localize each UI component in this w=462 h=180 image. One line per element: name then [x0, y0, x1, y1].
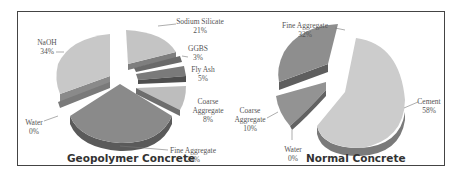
label-name: Fine Aggregate: [275, 21, 335, 30]
label-normal-fine-aggregate: Fine Aggregate 32%: [275, 21, 335, 39]
label-name: Cement: [413, 97, 445, 106]
label-water: Water 0%: [20, 118, 48, 136]
slice-normal-coarse-aggregate: [276, 82, 326, 130]
label-cement: Cement 58%: [413, 97, 445, 115]
label-name: Coarse: [188, 97, 228, 106]
label-pct: 3%: [183, 53, 213, 62]
normal-pie: [276, 24, 405, 156]
label-name: Water: [20, 118, 48, 127]
label-pct: 0%: [20, 127, 48, 136]
label-sodium-silicate: Sodium Silicate 21%: [170, 17, 230, 35]
label-name: Coarse: [230, 106, 270, 115]
label-name: NaOH: [32, 38, 62, 47]
label-pct: 32%: [275, 30, 335, 39]
geopolymer-pie: [56, 30, 186, 151]
label-name-2: Aggregate: [230, 115, 270, 124]
label-pct: 0%: [278, 154, 308, 163]
label-name: GGBS: [183, 44, 213, 53]
label-coarse-aggregate: Coarse Aggregate 8%: [188, 97, 228, 124]
label-ggbs: GGBS 3%: [183, 44, 213, 62]
label-pct: 58%: [413, 106, 445, 115]
label-naoh: NaOH 34%: [32, 38, 62, 56]
label-name: Fly Ash: [188, 65, 218, 74]
geopolymer-title: Geopolymer Concrete: [67, 152, 195, 164]
label-normal-water: Water 0%: [278, 145, 308, 163]
normal-concrete-title: Normal Concrete: [306, 152, 406, 164]
label-fly-ash: Fly Ash 5%: [188, 65, 218, 83]
label-pct: 34%: [32, 47, 62, 56]
label-name-2: Aggregate: [188, 106, 228, 115]
label-pct: 10%: [230, 124, 270, 133]
label-pct: 21%: [170, 26, 230, 35]
label-pct: 8%: [188, 115, 228, 124]
label-normal-coarse-aggregate: Coarse Aggregate 10%: [230, 106, 270, 133]
slice-cement: [317, 38, 405, 156]
label-name: Water: [278, 145, 308, 154]
label-pct: 5%: [188, 74, 218, 83]
label-name: Sodium Silicate: [170, 17, 230, 26]
